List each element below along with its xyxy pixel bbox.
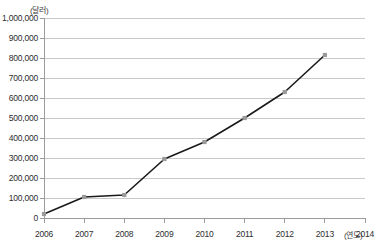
- data-point-marker: [162, 157, 166, 161]
- data-point-marker: [42, 212, 46, 216]
- data-point-marker: [323, 53, 327, 57]
- data-point-marker: [122, 193, 126, 197]
- data-point-marker: [202, 140, 206, 144]
- data-point-marker: [243, 116, 247, 120]
- data-point-marker: [82, 195, 86, 199]
- line-chart: (달러) (연도) 0100,000200,000300,000400,0005…: [0, 0, 381, 243]
- plot-area: [0, 0, 381, 243]
- data-line: [44, 55, 325, 214]
- data-point-marker: [283, 90, 287, 94]
